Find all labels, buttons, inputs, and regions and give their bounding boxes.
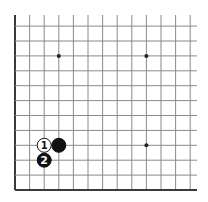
white-stone: 1 (37, 138, 51, 152)
black-stone: 2 (37, 153, 51, 167)
go-board-diagram: 12 (0, 0, 208, 202)
star-point (144, 54, 148, 58)
stone-body (52, 138, 66, 152)
star-point (144, 143, 148, 147)
move-number-label: 2 (40, 154, 48, 167)
star-point (57, 54, 61, 58)
stones-layer: 12 (37, 138, 66, 167)
black-stone (52, 138, 66, 152)
move-number-label: 1 (41, 140, 48, 151)
